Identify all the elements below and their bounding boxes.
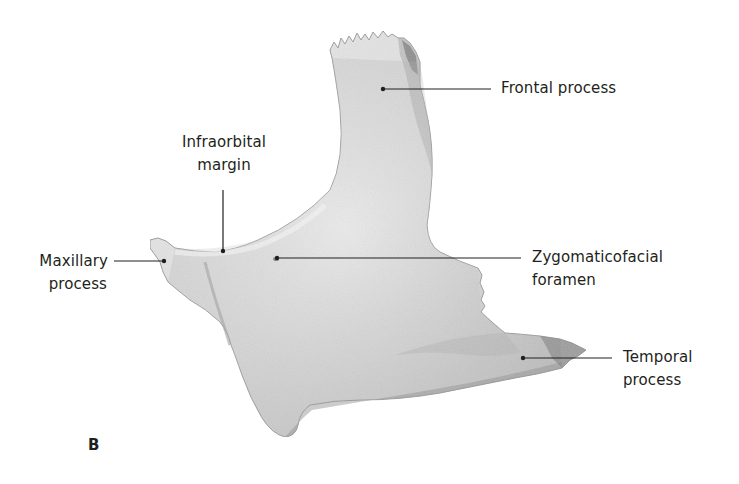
label-zygomaticofacial-foramen-line1: Zygomaticofacial <box>532 246 663 269</box>
label-zygomaticofacial-foramen: Zygomaticofacial foramen <box>532 246 663 292</box>
label-infraorbital-margin: Infraorbital margin <box>172 131 276 177</box>
label-frontal-process-line1: Frontal process <box>501 77 616 100</box>
panel-letter: B <box>88 436 99 454</box>
label-frontal-process: Frontal process <box>501 77 616 100</box>
zygomatic-bone-figure: Frontal process Infraorbital margin Maxi… <box>0 0 739 484</box>
zygomatic-bone-illustration <box>0 0 739 484</box>
label-temporal-process: Temporal process <box>623 346 692 392</box>
label-temporal-process-line1: Temporal <box>623 346 692 369</box>
label-infraorbital-margin-line1: Infraorbital <box>172 131 276 154</box>
label-maxillary-process-line1: Maxillary <box>20 250 108 273</box>
label-zygomaticofacial-foramen-line2: foramen <box>532 269 663 292</box>
label-infraorbital-margin-line2: margin <box>172 154 276 177</box>
label-maxillary-process: Maxillary process <box>20 250 108 296</box>
label-maxillary-process-line2: process <box>20 273 108 296</box>
label-temporal-process-line2: process <box>623 369 692 392</box>
